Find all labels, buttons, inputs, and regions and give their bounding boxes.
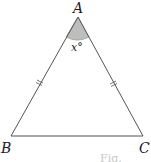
vertex-label-b: B: [0, 140, 11, 156]
figure-caption: Fig.: [100, 152, 122, 162]
side-ab: [11, 17, 78, 136]
triangle-diagram: A B C x° Fig.: [0, 0, 151, 162]
vertex-label-c: C: [139, 140, 150, 156]
vertex-label-a: A: [71, 0, 83, 16]
side-ac: [78, 17, 143, 136]
angle-arc-a: [66, 17, 89, 40]
angle-label-x: x°: [71, 41, 83, 54]
